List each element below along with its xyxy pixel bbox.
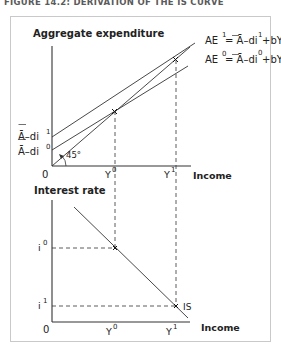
svg-text:Y: Y [165,326,172,337]
svg-text:= Ā–di: = Ā–di [225,53,258,65]
intersection-marker-e1 [173,57,178,62]
top-x-axis-label: Income [193,170,232,181]
svg-text:1: 1 [173,323,177,331]
is-curve [74,207,188,318]
svg-text:1: 1 [43,297,47,305]
top-x-tick-y1: Y 1 [163,166,175,180]
angle-label: 45° [66,150,81,160]
svg-text:0: 0 [43,239,47,247]
bottom-x-tick-y0: Y 0 [105,323,117,337]
bottom-y-tick-i1: i 1 [38,297,47,311]
top-origin-label: 0 [42,169,48,180]
svg-text:1: 1 [171,166,175,174]
svg-text:i: i [38,300,41,311]
bottom-origin-label: 0 [43,324,49,335]
bottom-x-axis-label: Income [201,322,240,333]
svg-text:0: 0 [113,323,117,331]
top-panel: Aggregate expenditure 45° Ā–di 1 [18,28,281,181]
bottom-panel: Interest rate IS i 0 i 1 0 Y 0 Y 1 [34,185,240,337]
svg-text:1: 1 [46,128,50,136]
svg-text:+bY: +bY [262,54,281,65]
svg-text:AE: AE [205,35,218,46]
ae0-line [52,66,188,150]
svg-text:Ā–di: Ā–di [18,130,39,142]
svg-text:AE: AE [205,54,218,65]
svg-text:= Ā–di: = Ā–di [225,34,258,46]
bottom-y-tick-i0: i 0 [38,239,47,253]
svg-text:0: 0 [112,166,116,174]
svg-text:Ā–di: Ā–di [18,145,39,157]
bottom-y-axis-label: Interest rate [34,185,106,196]
svg-text:Y: Y [105,326,112,337]
svg-text:Y: Y [163,169,170,180]
is-curve-label: IS [183,302,192,312]
svg-text:Y: Y [104,169,111,180]
intercept-label-a-di0: Ā–di 0 [18,140,50,158]
intersection-marker-e0 [112,109,117,114]
arrowhead-icon [59,154,64,159]
equation-ae0: AE 0 = Ā–di 0 +bY [205,49,281,65]
svg-text:i: i [38,242,41,253]
svg-text:0: 0 [46,143,50,151]
forty-five-degree-line [52,47,190,166]
svg-text:+bY: +bY [262,35,281,46]
is-curve-diagram: Aggregate expenditure 45° Ā–di 1 [0,0,281,364]
dashed-projection-lines [52,60,176,306]
top-y-axis-label: Aggregate expenditure [33,28,164,39]
top-x-tick-y0: Y 0 [104,166,116,180]
bottom-x-tick-y1: Y 1 [165,323,177,337]
equation-ae1: AE 1 = Ā–di 1 +bY [205,31,281,46]
